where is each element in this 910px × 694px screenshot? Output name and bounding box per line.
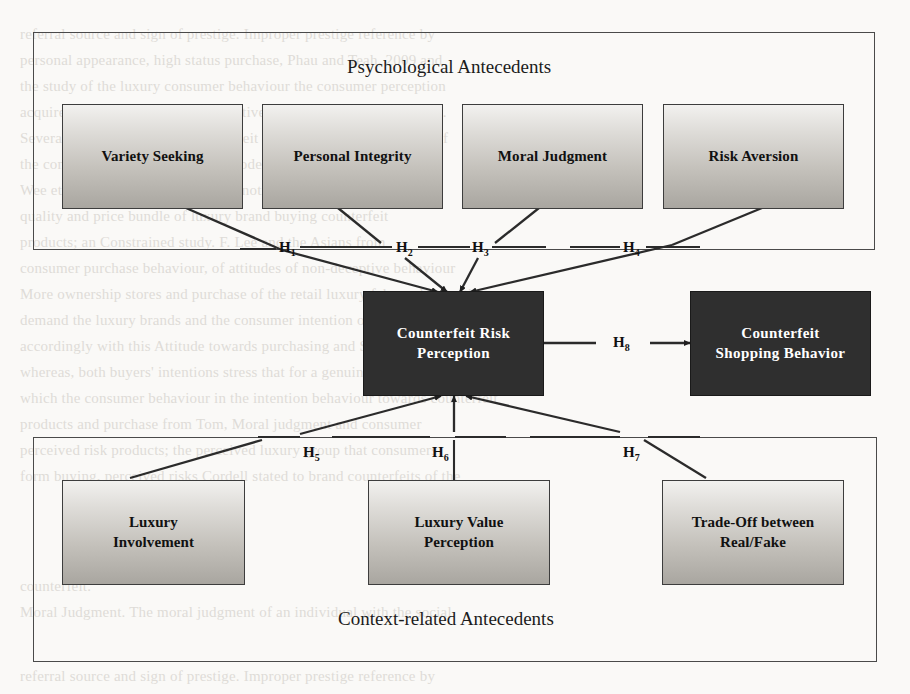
node-luxury-involvement[interactable]: Luxury Involvement [62, 480, 245, 585]
node-counterfeit-shopping-behavior[interactable]: Counterfeit Shopping Behavior [690, 291, 871, 396]
node-label-line2: Involvement [113, 533, 194, 552]
node-counterfeit-risk-perception[interactable]: Counterfeit Risk Perception [363, 291, 544, 396]
research-model-figure: referral source and sign of prestige. Im… [0, 0, 910, 694]
hypothesis-label-h3: H3 [472, 239, 489, 258]
node-label-line1: Luxury Value [414, 513, 503, 532]
hypothesis-base: H [432, 444, 444, 460]
hypothesis-subscript: 6 [444, 452, 449, 463]
hypothesis-subscript: 3 [484, 247, 489, 258]
node-label-line2: Shopping Behavior [716, 344, 846, 363]
psychological-antecedents-title: Psychological Antecedents [347, 56, 551, 78]
node-luxury-value-perception[interactable]: Luxury Value Perception [368, 480, 550, 585]
node-trade-off-real-fake[interactable]: Trade-Off between Real/Fake [662, 480, 844, 585]
hypothesis-subscript: 7 [635, 452, 640, 463]
node-variety-seeking[interactable]: Variety Seeking [62, 104, 243, 209]
node-label-line2: Perception [424, 533, 494, 552]
hypothesis-label-h8: H8 [613, 334, 630, 353]
hypothesis-base: H [396, 239, 408, 255]
bleed-text-line: referral source and sign of prestige. Im… [20, 668, 435, 685]
path-h7-to-crp [466, 396, 620, 432]
hypothesis-label-h4: H4 [623, 239, 640, 258]
path-h1-to-crp [282, 250, 438, 292]
hypothesis-label-h5: H5 [303, 444, 320, 463]
hypothesis-base: H [472, 239, 484, 255]
node-label-line1: Counterfeit [741, 324, 820, 343]
hypothesis-base: H [303, 444, 315, 460]
hypothesis-subscript: 2 [408, 247, 413, 258]
bleed-text-line: consumer purchase behaviour, of attitude… [20, 260, 455, 277]
path-h3-to-crp [460, 258, 478, 292]
hypothesis-subscript: 5 [315, 452, 320, 463]
hypothesis-base: H [613, 334, 625, 350]
node-risk-aversion[interactable]: Risk Aversion [663, 104, 844, 209]
hypothesis-label-h6: H6 [432, 444, 449, 463]
bleed-text-line: products and purchase from Tom, Moral ju… [20, 416, 422, 433]
hypothesis-subscript: 1 [291, 247, 296, 258]
hypothesis-base: H [623, 444, 635, 460]
node-label-line2: Perception [417, 344, 490, 363]
node-label-line1: Counterfeit Risk [397, 324, 510, 343]
hypothesis-subscript: 4 [635, 247, 640, 258]
node-label-line2: Real/Fake [720, 533, 786, 552]
node-label-line1: Trade-Off between [692, 513, 815, 532]
hypothesis-label-h1: H1 [279, 239, 296, 258]
node-personal-integrity[interactable]: Personal Integrity [262, 104, 443, 209]
hypothesis-label-h2: H2 [396, 239, 413, 258]
hypothesis-base: H [279, 239, 291, 255]
hypothesis-label-h7: H7 [623, 444, 640, 463]
path-h2-to-crp [405, 258, 447, 292]
path-h5-to-crp [300, 396, 441, 434]
hypothesis-base: H [623, 239, 635, 255]
node-label-line1: Luxury [129, 513, 178, 532]
hypothesis-subscript: 8 [625, 342, 630, 353]
node-moral-judgment[interactable]: Moral Judgment [462, 104, 643, 209]
path-h4-to-crp [470, 245, 672, 292]
context-related-antecedents-title: Context-related Antecedents [338, 608, 554, 630]
